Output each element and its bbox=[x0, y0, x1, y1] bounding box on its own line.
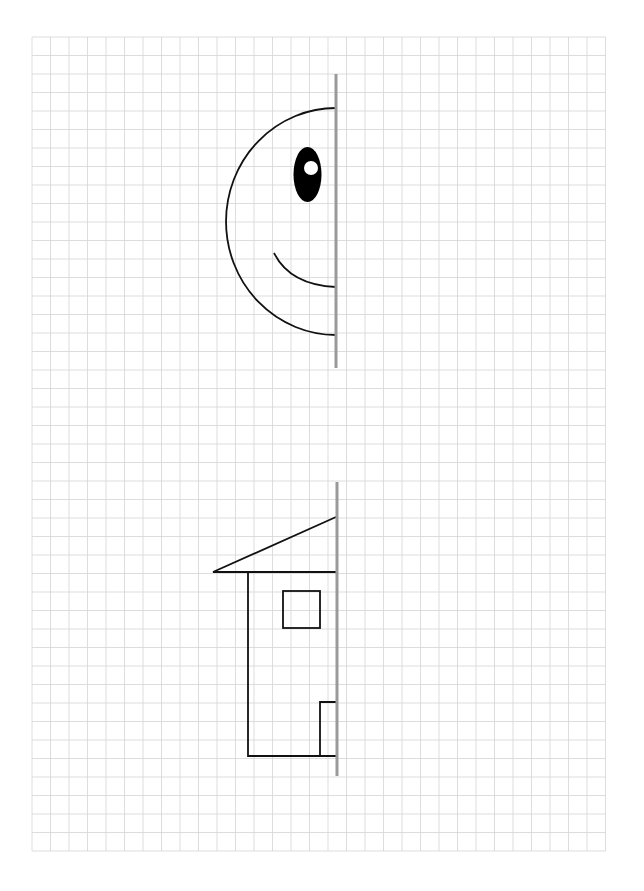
face-outline-arc bbox=[226, 108, 336, 335]
roof-outline bbox=[213, 517, 336, 572]
eye-highlight bbox=[304, 161, 318, 175]
eye-icon bbox=[294, 147, 322, 202]
window-square bbox=[283, 591, 320, 628]
smiley-face-half-drawing bbox=[226, 74, 336, 368]
house-wall-outline bbox=[248, 572, 336, 756]
symmetry-worksheet bbox=[0, 0, 644, 891]
mouth-curve bbox=[274, 253, 336, 287]
